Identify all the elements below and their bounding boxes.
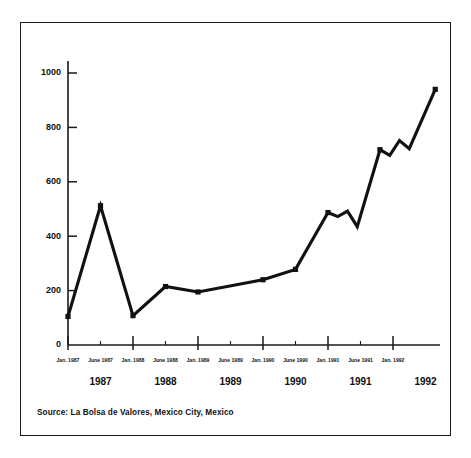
source-note: Source: La Bolsa de Valores, Mexico City… [37,408,234,417]
figure-border [20,22,451,436]
chart-figure: 02004006008001000 Jan. 1987June 1987Jan.… [0,0,471,458]
